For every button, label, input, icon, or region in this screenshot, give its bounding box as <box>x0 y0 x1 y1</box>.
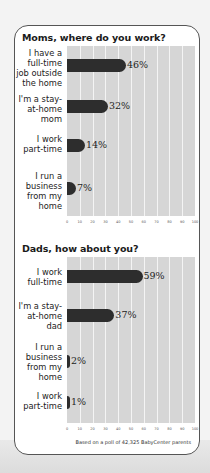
moms-value-label: 14% <box>86 139 107 150</box>
x-tick-label: 10 <box>78 220 82 224</box>
moms-x-axis-ticks: 0102030405060708090100 <box>67 220 195 226</box>
x-tick-label: 70 <box>154 427 158 431</box>
dads-row-label: I run a business from my home <box>26 342 62 382</box>
moms-row-label: I run a business from my home <box>26 171 62 211</box>
gridline <box>157 46 158 216</box>
x-tick-label: 30 <box>103 220 107 224</box>
x-tick-label: 20 <box>90 220 94 224</box>
moms-chart-title: Moms, where do you work? <box>22 32 166 43</box>
dads-row-label: I work part-time <box>23 391 62 411</box>
poll-footnote: Based on a poll of 42,325 BabyCenter par… <box>75 439 191 445</box>
x-tick-label: 30 <box>103 427 107 431</box>
x-tick-label: 90 <box>180 220 184 224</box>
poll-card: Moms, where do you work? I have a full-t… <box>14 25 200 455</box>
gridline <box>144 257 145 423</box>
moms-bar <box>67 100 108 113</box>
gridline <box>169 257 170 423</box>
moms-value-label: 7% <box>77 182 92 193</box>
gridline <box>131 46 132 216</box>
dads-row-label: I work full-time <box>27 267 62 287</box>
moms-bar <box>67 139 85 152</box>
x-tick-label: 50 <box>129 220 133 224</box>
x-tick-label: 10 <box>78 427 82 431</box>
gridline <box>182 257 183 423</box>
dads-row-label: I'm a stay- at-home dad <box>18 301 62 331</box>
x-tick-label: 40 <box>116 220 120 224</box>
dads-bar <box>67 355 70 368</box>
dads-x-axis-ticks: 0102030405060708090100 <box>67 427 195 433</box>
dads-bar <box>67 309 114 322</box>
x-tick-label: 0 <box>66 220 68 224</box>
dads-value-label: 1% <box>71 396 86 407</box>
dads-value-label: 2% <box>71 355 86 366</box>
x-tick-label: 100 <box>192 427 199 431</box>
moms-row-label: I work part-time <box>23 134 62 154</box>
dads-bar <box>67 396 70 409</box>
dads-value-label: 37% <box>115 309 136 320</box>
moms-bar <box>67 59 126 72</box>
gridline <box>144 46 145 216</box>
gridline <box>169 46 170 216</box>
x-tick-label: 80 <box>167 220 171 224</box>
dads-bar <box>67 270 143 283</box>
x-tick-label: 20 <box>90 427 94 431</box>
dads-chart-title: Dads, how about you? <box>22 243 138 254</box>
moms-row-label: I have a full-time job outside the home <box>16 48 62 88</box>
moms-row-label: I'm a stay- at-home mom <box>18 94 62 124</box>
gridline <box>182 46 183 216</box>
dads-value-label: 59% <box>144 270 165 281</box>
gridline <box>157 257 158 423</box>
x-tick-label: 80 <box>167 427 171 431</box>
x-tick-label: 40 <box>116 427 120 431</box>
moms-value-label: 46% <box>127 59 148 70</box>
x-tick-label: 70 <box>154 220 158 224</box>
x-tick-label: 60 <box>142 220 146 224</box>
moms-value-label: 32% <box>109 100 130 111</box>
x-tick-label: 0 <box>66 427 68 431</box>
x-tick-label: 100 <box>192 220 199 224</box>
x-tick-label: 90 <box>180 427 184 431</box>
x-tick-label: 50 <box>129 427 133 431</box>
x-tick-label: 60 <box>142 427 146 431</box>
